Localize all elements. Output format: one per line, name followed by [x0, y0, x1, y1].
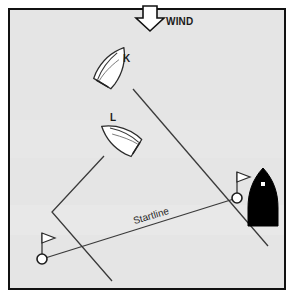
diagram-svg: WIND Startline K L [0, 0, 294, 298]
boat-l-label: L [110, 112, 116, 123]
sailing-diagram-canvas: WIND Startline K L [0, 0, 294, 298]
committee-end-buoy-mark [232, 193, 242, 203]
committee-boat-port-light [261, 182, 265, 186]
boat-k-label: K [123, 53, 131, 64]
wind-label: WIND [166, 16, 193, 27]
pin-end-buoy-mark [37, 254, 47, 264]
field-texture [10, 10, 284, 288]
